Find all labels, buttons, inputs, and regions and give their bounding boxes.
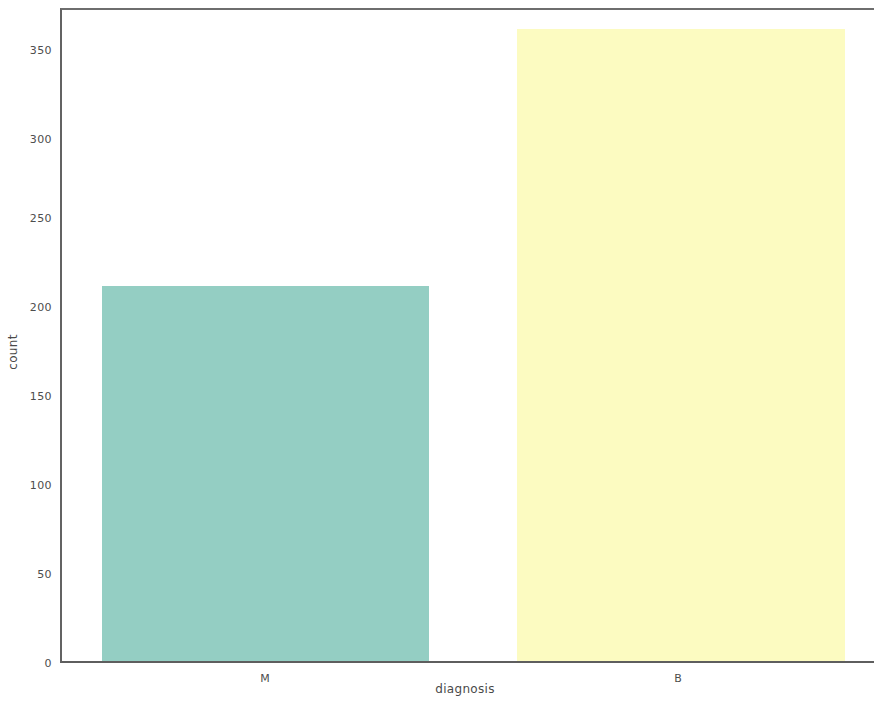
y-tick-label-100: 100	[30, 479, 52, 492]
x-axis-label: diagnosis	[435, 682, 494, 696]
y-tick-label-150: 150	[30, 390, 52, 403]
x-tick-label-b: B	[674, 672, 682, 685]
x-tick-label-m: M	[260, 672, 270, 685]
y-tick-label-300: 300	[30, 133, 52, 146]
y-axis-label: count	[6, 334, 20, 369]
y-tick-label-200: 200	[30, 301, 52, 314]
plot-area	[60, 8, 874, 663]
bar-m[interactable]	[102, 286, 429, 661]
y-tick-label-0: 0	[45, 657, 52, 670]
bar-b[interactable]	[517, 29, 845, 661]
y-tick-label-250: 250	[30, 212, 52, 225]
bar-chart-figure: 0 50 100 150 200 250 300 350 M B diagnos…	[0, 0, 874, 710]
y-tick-label-350: 350	[30, 44, 52, 57]
y-tick-label-50: 50	[37, 568, 52, 581]
